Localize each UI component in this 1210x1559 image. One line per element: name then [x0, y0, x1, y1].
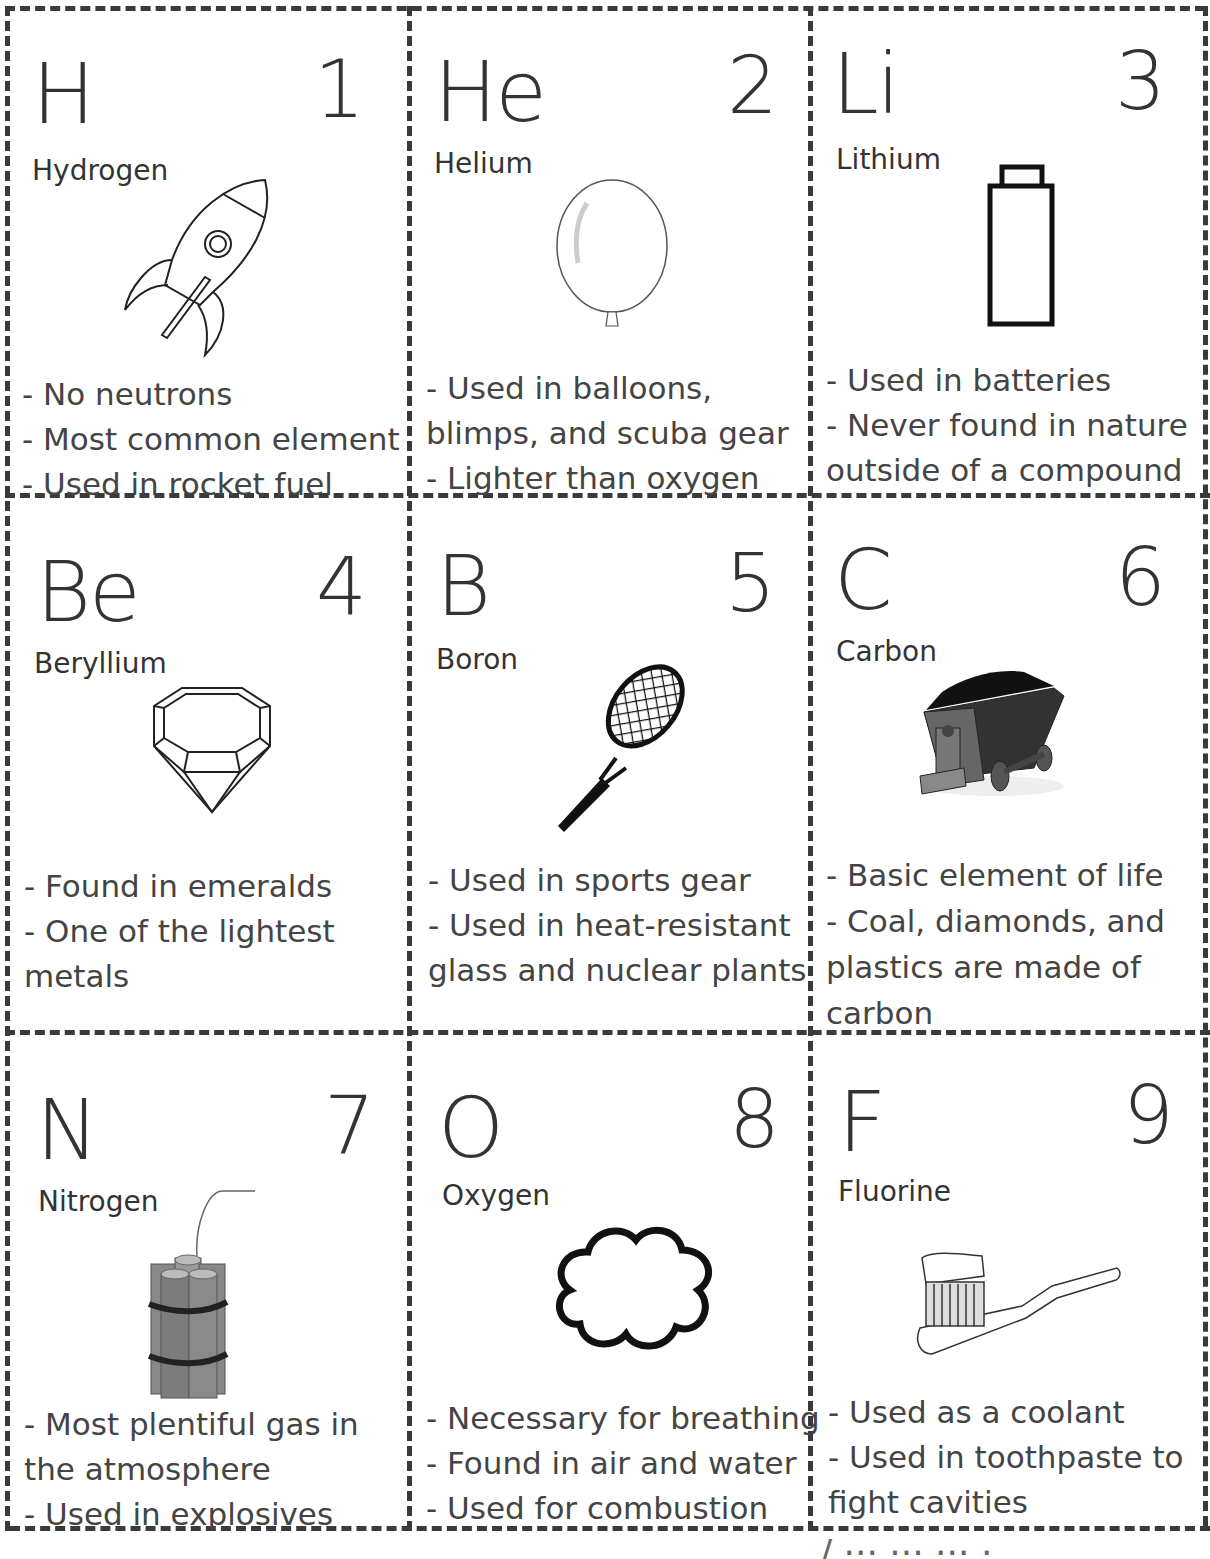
- fact-list: - Used in sports gear - Used in heat-res…: [428, 858, 806, 993]
- element-card-nitrogen: N 7 Nitrogen - Most plentiful gas in the…: [10, 1036, 405, 1526]
- fact-list: - Found in emeralds - One of the lightes…: [24, 864, 335, 999]
- coal-cart-icon: [914, 668, 1084, 808]
- atomic-number: 6: [1115, 538, 1166, 618]
- fact-list: - Used in balloons, blimps, and scuba ge…: [426, 366, 789, 501]
- atomic-number: 1: [314, 50, 365, 130]
- element-symbol: F: [838, 1080, 884, 1164]
- atomic-number: 2: [727, 46, 778, 126]
- atomic-number: 4: [316, 548, 367, 628]
- element-name: Helium: [434, 150, 533, 178]
- element-name: Lithium: [836, 146, 941, 174]
- fact-list: - Basic element of life - Coal, diamonds…: [826, 852, 1165, 1036]
- atomic-number: 9: [1123, 1076, 1174, 1156]
- element-symbol: C: [834, 538, 891, 622]
- fact-list: - No neutrons - Most common element - Us…: [22, 372, 400, 507]
- element-symbol: Li: [832, 42, 898, 126]
- cut-off-text: / ··· ··· ··· ·: [820, 1538, 1210, 1559]
- element-symbol: O: [438, 1086, 502, 1170]
- element-card-carbon: C 6 Carbon - Basic element of life - Coa…: [814, 498, 1204, 1028]
- element-symbol: He: [434, 50, 545, 134]
- gem-icon: [142, 684, 282, 814]
- element-name: Oxygen: [442, 1182, 550, 1210]
- tennis-racket-icon: [544, 658, 704, 838]
- element-card-oxygen: O 8 Oxygen - Necessary for breathing - F…: [412, 1036, 806, 1526]
- element-name: Carbon: [836, 638, 937, 666]
- element-name: Fluorine: [838, 1178, 951, 1206]
- rocket-icon: [110, 170, 290, 370]
- element-symbol: Be: [36, 550, 139, 634]
- element-name: Nitrogen: [38, 1188, 158, 1216]
- atomic-number: 7: [324, 1086, 375, 1166]
- atomic-number: 8: [729, 1080, 780, 1160]
- fact-list: - Most plentiful gas in the atmosphere -…: [24, 1402, 359, 1537]
- dynamite-icon: [145, 1186, 255, 1406]
- fact-list: - Necessary for breathing - Found in air…: [426, 1396, 820, 1531]
- element-symbol: H: [32, 52, 93, 136]
- element-symbol: B: [436, 544, 489, 628]
- atomic-number: 3: [1115, 42, 1166, 122]
- cloud-icon: [548, 1222, 728, 1362]
- element-card-lithium: Li 3 Lithium - Used in batteries - Never…: [814, 10, 1204, 493]
- element-card-hydrogen: H 1 Hydrogen - No neutrons - Most common…: [10, 10, 405, 493]
- fact-list: - Used in batteries - Never found in nat…: [826, 358, 1188, 493]
- element-name: Beryllium: [34, 650, 167, 678]
- element-card-boron: B 5 Boron - Used in sports gear - Used i…: [412, 498, 806, 1028]
- element-name: Boron: [436, 646, 518, 674]
- element-card-fluorine: F 9 Fluorine - Used as a coolant - Used …: [814, 1036, 1204, 1526]
- element-card-helium: He 2 Helium - Used in balloons, blimps, …: [412, 10, 806, 493]
- element-symbol: N: [36, 1088, 97, 1172]
- atomic-number: 5: [725, 544, 776, 624]
- toothbrush-icon: [912, 1246, 1132, 1356]
- battery-icon: [984, 160, 1064, 335]
- cut-line-col2: [808, 6, 813, 1531]
- element-card-beryllium: Be 4 Beryllium - Found in emeralds - One…: [10, 498, 405, 1028]
- fact-list: - Used as a coolant - Used in toothpaste…: [828, 1390, 1184, 1525]
- balloon-icon: [552, 178, 672, 330]
